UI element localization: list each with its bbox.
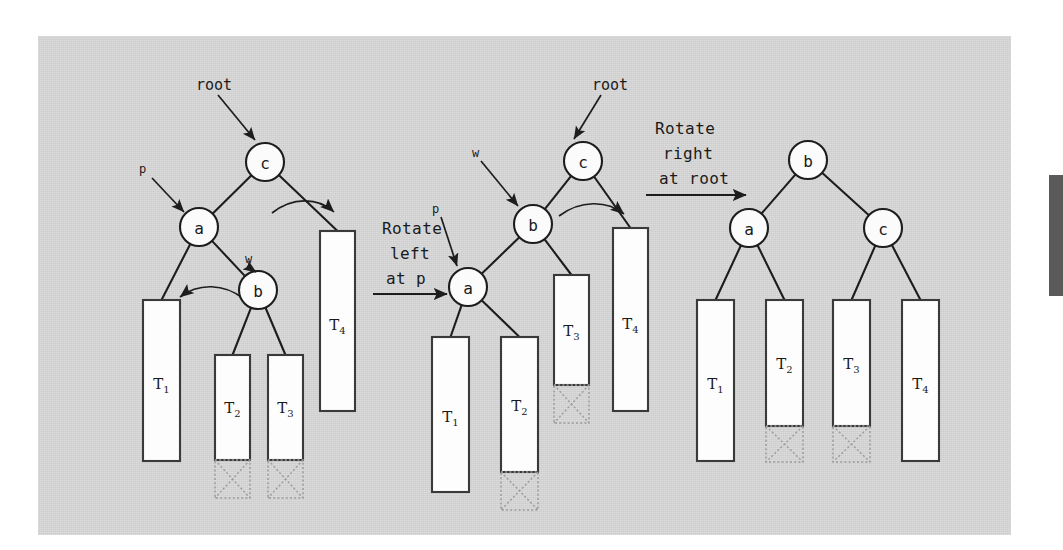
subtree-null-x-icon	[268, 460, 303, 498]
node-key: a	[194, 219, 204, 238]
pointer-arrow-icon	[481, 161, 518, 206]
edge-c-T4	[892, 245, 921, 300]
operation-op-left: Rotateleftat p	[373, 219, 447, 294]
operation-op-right: Rotaterightat root	[646, 119, 746, 195]
node-key: a	[463, 279, 473, 298]
node-c-middle: c	[564, 142, 602, 180]
operation-line-3: at root	[659, 169, 729, 188]
tree-after: T1T2T3T4bac	[697, 141, 939, 462]
node-c-before: c	[246, 143, 284, 181]
edge-a-T2	[757, 245, 784, 300]
edge-a-b	[212, 241, 245, 276]
edge-c-T4	[594, 176, 631, 228]
tree-middle: T1T2T3T4cbarootwp	[432, 76, 648, 510]
subtree-T3-middle: T3	[554, 275, 589, 423]
node-b-middle: b	[514, 205, 552, 243]
subtree-null-x-icon	[766, 426, 803, 462]
pointer-p-before: p	[139, 162, 184, 212]
node-a-after: a	[730, 209, 768, 247]
node-c-after: c	[864, 209, 902, 247]
subtree-T3-after: T3	[833, 300, 870, 462]
subtree-T1-before: T1	[143, 300, 180, 461]
edge-a-T1	[716, 245, 741, 300]
operation-line-1: Rotate	[382, 219, 442, 238]
edge-a-T1	[451, 305, 462, 337]
node-key: b	[803, 152, 813, 171]
operation-line-2: left	[390, 244, 430, 263]
edge-a-T2	[482, 300, 520, 337]
edge-b-T3	[544, 239, 571, 275]
subtree-T4-before: T4	[320, 231, 355, 411]
edge-b-T2	[233, 308, 252, 355]
pointer-label: root	[196, 76, 232, 94]
operation-line-2: right	[663, 144, 713, 163]
pointer-arrow-icon	[152, 178, 184, 212]
node-key: a	[744, 220, 754, 239]
edge-b-a	[482, 237, 520, 274]
pointer-w-before: w	[245, 252, 256, 272]
subtree-T2-before: T2	[215, 355, 250, 498]
pointer-arrow-icon	[441, 217, 457, 266]
subtree-null-x-icon	[215, 460, 250, 498]
node-key: b	[528, 216, 538, 235]
subtree-T4-after: T4	[902, 300, 939, 461]
pointer-label: w	[472, 146, 480, 160]
subtree-null-x-icon	[833, 426, 870, 462]
subtree-T3-before: T3	[268, 355, 303, 498]
figure-page: T1T2T3T4cabrootpwT1T2T3T4cbarootwpT1T2T3…	[0, 0, 1063, 550]
curve-hint-1	[272, 201, 334, 213]
pointer-label: root	[592, 76, 628, 94]
subtree-null-x-icon	[501, 472, 538, 510]
pointer-label: w	[245, 252, 253, 266]
subtree-T4-middle: T4	[613, 228, 648, 411]
edge-c-b	[545, 176, 571, 209]
node-b-after: b	[789, 141, 827, 179]
edge-b-a	[761, 174, 795, 213]
pointer-w-middle: w	[472, 146, 518, 206]
edge-b-T3	[265, 307, 285, 355]
pointer-root-middle: root	[574, 76, 628, 139]
pointer-arrow-icon	[218, 95, 255, 140]
node-key: c	[878, 220, 888, 239]
node-key: c	[260, 154, 270, 173]
operation-line-3: at p	[386, 269, 426, 288]
subtree-null-x-icon	[554, 385, 589, 423]
subtree-T2-after: T2	[766, 300, 803, 462]
edge-a-T1	[162, 244, 191, 300]
rotation-diagram: T1T2T3T4cabrootpwT1T2T3T4cbarootwpT1T2T3…	[0, 0, 1063, 550]
edge-b-c	[822, 173, 869, 215]
pointer-label: p	[139, 162, 146, 176]
node-b-before: b	[239, 271, 277, 309]
node-a-middle: a	[449, 268, 487, 306]
edge-c-T3	[852, 245, 876, 300]
node-key: c	[578, 153, 588, 172]
curve-hint-2	[180, 287, 244, 299]
subtree-T1-after: T1	[697, 300, 734, 461]
operation-line-1: Rotate	[655, 119, 715, 138]
subtree-T2-middle: T2	[501, 337, 538, 510]
edge-c-T4	[279, 175, 338, 231]
pointer-arrow-icon	[574, 95, 601, 139]
pointer-root-before: root	[196, 76, 255, 140]
tree-before: T1T2T3T4cabrootpw	[139, 76, 355, 498]
node-key: b	[253, 282, 263, 301]
subtree-T1-middle: T1	[432, 337, 469, 492]
node-a-before: a	[180, 208, 218, 246]
edge-c-a	[213, 175, 252, 213]
pointer-label: p	[432, 202, 439, 216]
